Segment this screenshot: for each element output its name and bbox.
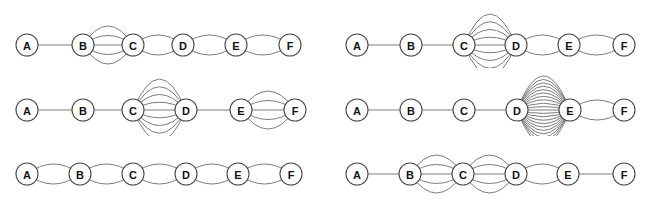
node-E: E: [558, 34, 580, 56]
node-F: F: [613, 34, 635, 56]
graph-panel-6: ABCDEF: [330, 136, 657, 203]
node-label: F: [292, 105, 299, 117]
node-label: E: [565, 40, 572, 52]
node-E: E: [227, 163, 249, 185]
node-label: E: [566, 105, 573, 117]
node-A: A: [346, 163, 368, 185]
node-F: F: [280, 163, 302, 185]
node-label: D: [512, 40, 520, 52]
node-C: C: [453, 34, 475, 56]
node-label: C: [459, 169, 467, 181]
graph-panel-3: ABCDEF: [0, 136, 327, 203]
edge-layer: [357, 76, 624, 136]
node-label: F: [621, 169, 628, 181]
node-C: C: [122, 163, 144, 185]
graph-panel-5: ABCDEF: [330, 68, 657, 136]
node-layer: ABCDEF: [16, 163, 302, 185]
node-C: C: [122, 99, 144, 121]
node-label: A: [353, 105, 361, 117]
node-B: B: [72, 34, 94, 56]
node-label: A: [23, 40, 31, 52]
node-label: D: [182, 169, 190, 181]
node-label: B: [407, 40, 415, 52]
node-C: C: [453, 99, 475, 121]
node-D: D: [505, 34, 527, 56]
node-F: F: [279, 34, 301, 56]
node-B: B: [400, 99, 422, 121]
node-A: A: [16, 34, 38, 56]
node-A: A: [16, 163, 38, 185]
edge-layer: [357, 14, 624, 68]
node-D: D: [175, 99, 197, 121]
node-A: A: [346, 99, 368, 121]
node-label: A: [353, 40, 361, 52]
node-label: C: [460, 105, 468, 117]
node-label: D: [512, 169, 520, 181]
node-label: D: [513, 105, 521, 117]
edge-layer: [27, 26, 290, 64]
node-label: D: [182, 105, 190, 117]
node-B: B: [72, 99, 94, 121]
node-label: B: [406, 169, 414, 181]
graph-panel-2: ABCDEF: [0, 68, 327, 136]
node-E: E: [559, 99, 581, 121]
node-D: D: [505, 163, 527, 185]
node-E: E: [230, 99, 252, 121]
node-C: C: [122, 34, 144, 56]
node-label: B: [76, 169, 84, 181]
graph-panel-1: ABCDEF: [0, 0, 327, 68]
multigraph-figure: ABCDEFABCDEFABCDEFABCDEFABCDEFABCDEF: [0, 0, 657, 203]
edge-layer: [27, 79, 295, 136]
edge-layer: [27, 164, 291, 184]
node-E: E: [225, 34, 247, 56]
node-label: B: [79, 105, 87, 117]
node-label: F: [287, 40, 294, 52]
node-F: F: [613, 99, 635, 121]
node-label: B: [79, 40, 87, 52]
node-label: C: [129, 105, 137, 117]
node-label: E: [564, 169, 571, 181]
node-D: D: [175, 163, 197, 185]
node-label: F: [288, 169, 295, 181]
node-label: F: [621, 40, 628, 52]
node-A: A: [346, 34, 368, 56]
graph-panel-4: ABCDEF: [330, 0, 657, 68]
node-label: B: [407, 105, 415, 117]
node-label: C: [129, 169, 137, 181]
node-label: C: [460, 40, 468, 52]
node-B: B: [399, 163, 421, 185]
node-label: E: [237, 105, 244, 117]
node-label: A: [23, 105, 31, 117]
node-D: D: [172, 34, 194, 56]
node-E: E: [557, 163, 579, 185]
node-label: E: [234, 169, 241, 181]
node-C: C: [452, 163, 474, 185]
node-F: F: [284, 99, 306, 121]
node-F: F: [613, 163, 635, 185]
node-label: A: [353, 169, 361, 181]
node-label: D: [179, 40, 187, 52]
node-label: C: [129, 40, 137, 52]
node-label: A: [23, 169, 31, 181]
node-B: B: [69, 163, 91, 185]
node-label: E: [232, 40, 239, 52]
node-label: F: [621, 105, 628, 117]
node-B: B: [400, 34, 422, 56]
edge-layer: [357, 155, 624, 193]
node-A: A: [16, 99, 38, 121]
node-D: D: [506, 99, 528, 121]
